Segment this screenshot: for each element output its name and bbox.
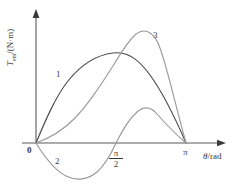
x-tick-label-pi: π [183, 148, 188, 157]
pi-over-2-denominator: 2 [109, 159, 123, 170]
y-axis-label-symbol: T [5, 61, 15, 66]
y-axis-label-unit: /(N·m) [5, 29, 15, 54]
curve-label-3: 3 [153, 31, 158, 40]
chart-figure: Tem/(N·m) θ/rad 0 π 2 π 1 2 3 [0, 0, 250, 188]
curve-label-1: 1 [56, 70, 61, 79]
y-axis-label-subscript: em [11, 54, 17, 61]
x-axis-label-unit: /rad [207, 151, 221, 161]
x-axis-label: θ/rad [203, 152, 221, 161]
pi-over-2-numerator: π [109, 148, 123, 159]
curve-1-path [36, 53, 186, 143]
origin-tick-label: 0 [27, 146, 32, 155]
x-tick-label-pi-over-2: π 2 [109, 148, 123, 170]
curve-label-2: 2 [55, 157, 60, 166]
y-axis-label: Tem/(N·m) [6, 52, 17, 66]
curve-3-path [36, 31, 186, 143]
x-axis-arrow-icon [217, 140, 226, 146]
y-axis-arrow-icon [33, 9, 40, 18]
